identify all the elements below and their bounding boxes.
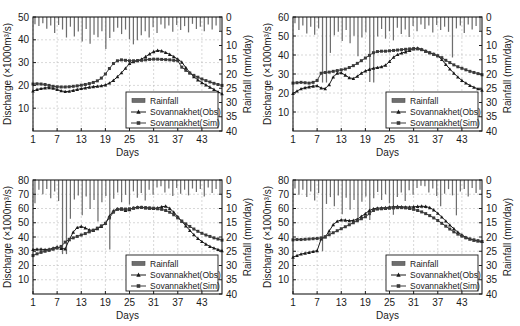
svg-text:5: 5 (486, 189, 492, 200)
svg-text:1: 1 (290, 297, 296, 308)
legend-rainfall-swatch (392, 261, 405, 265)
svg-text:40: 40 (226, 289, 238, 300)
panel-1-svg: 1020304050Discharge (×1000m³/s)051015202… (0, 0, 260, 163)
svg-text:35: 35 (226, 274, 238, 285)
legend-label-1: Sovannakhet(Obs) (410, 107, 481, 117)
series-sim (292, 206, 484, 243)
svg-text:0: 0 (226, 12, 232, 23)
svg-text:30: 30 (486, 97, 498, 108)
svg-text:30: 30 (278, 69, 290, 80)
svg-text:19: 19 (100, 297, 112, 308)
svg-text:13: 13 (336, 297, 348, 308)
svg-text:31: 31 (408, 297, 420, 308)
svg-text:10: 10 (278, 274, 290, 285)
legend-rainfall-swatch (132, 261, 145, 265)
svg-text:37: 37 (432, 134, 444, 145)
x-axis-title: Days (116, 310, 139, 321)
legend-label-2: Sovannakhet(Sim) (150, 118, 220, 128)
legend-label-1: Sovannakhet(Obs) (150, 107, 221, 117)
y-axis-right-title: Rainfall (mm/day) (242, 35, 253, 113)
svg-text:1: 1 (30, 134, 36, 145)
svg-text:20: 20 (18, 80, 30, 91)
legend-label-2: Sovannakhet(Sim) (410, 281, 480, 291)
svg-text:37: 37 (172, 134, 184, 145)
svg-text:10: 10 (486, 40, 498, 51)
svg-text:25: 25 (486, 246, 498, 257)
svg-text:30: 30 (278, 246, 290, 257)
svg-text:5: 5 (486, 26, 492, 37)
svg-text:80: 80 (278, 175, 290, 186)
svg-text:20: 20 (226, 232, 238, 243)
chart-panel-4: 1020304050607080Discharge (×1000m³/s)051… (260, 163, 520, 326)
y-axis-left-title: Discharge (×1000m³/s) (2, 23, 13, 125)
panel-4-svg: 1020304050607080Discharge (×1000m³/s)051… (260, 163, 520, 326)
svg-text:37: 37 (172, 297, 184, 308)
svg-text:40: 40 (486, 289, 498, 300)
svg-text:10: 10 (226, 40, 238, 51)
svg-text:25: 25 (226, 246, 238, 257)
svg-text:25: 25 (384, 297, 396, 308)
svg-text:30: 30 (18, 57, 30, 68)
svg-text:43: 43 (456, 134, 468, 145)
rainfall-bars (35, 17, 220, 49)
legend-label-1: Sovannakhet(Obs) (150, 270, 221, 280)
svg-text:35: 35 (226, 111, 238, 122)
svg-text:15: 15 (486, 54, 498, 65)
svg-text:50: 50 (18, 12, 30, 23)
panel-2-plot: 102030405060Discharge (×1000m³/s)0510152… (260, 0, 520, 163)
svg-text:7: 7 (54, 297, 60, 308)
svg-text:25: 25 (384, 134, 396, 145)
legend-label-1: Sovannakhet(Obs) (410, 270, 481, 280)
svg-text:31: 31 (148, 297, 160, 308)
svg-text:7: 7 (314, 297, 320, 308)
svg-text:80: 80 (18, 175, 30, 186)
svg-text:25: 25 (124, 134, 136, 145)
chart-panel-1: 1020304050Discharge (×1000m³/s)051015202… (0, 0, 260, 163)
legend: RainfallSovannakhet(Obs)Sovannakhet(Sim) (126, 92, 221, 128)
panel-3-svg: 1020304050607080Discharge (×1000m³/s)051… (0, 163, 260, 326)
svg-text:13: 13 (76, 297, 88, 308)
svg-text:25: 25 (124, 297, 136, 308)
svg-text:13: 13 (336, 134, 348, 145)
svg-text:5: 5 (226, 26, 232, 37)
legend-label-2: Sovannakhet(Sim) (150, 281, 220, 291)
svg-text:10: 10 (486, 203, 498, 214)
svg-text:7: 7 (314, 134, 320, 145)
multi-panel-hydrograph-figure: 1020304050Discharge (×1000m³/s)051015202… (0, 0, 520, 326)
y-axis-left-title: Discharge (×1000m³/s) (262, 186, 273, 288)
y-axis-left-title: Discharge (×1000m³/s) (262, 23, 273, 125)
svg-text:10: 10 (278, 107, 290, 118)
svg-text:20: 20 (486, 232, 498, 243)
svg-text:31: 31 (408, 134, 420, 145)
svg-text:20: 20 (18, 260, 30, 271)
svg-text:43: 43 (456, 297, 468, 308)
chart-panel-3: 1020304050607080Discharge (×1000m³/s)051… (0, 163, 260, 326)
svg-text:40: 40 (18, 232, 30, 243)
x-axis-title: Days (376, 147, 399, 158)
svg-text:60: 60 (278, 203, 290, 214)
svg-text:5: 5 (226, 189, 232, 200)
legend-label-0: Rainfall (410, 96, 438, 106)
svg-text:20: 20 (226, 69, 238, 80)
svg-text:35: 35 (486, 111, 498, 122)
legend-sim-marker (137, 121, 141, 125)
rainfall-bars (295, 180, 480, 251)
svg-text:20: 20 (278, 260, 290, 271)
x-axis-title: Days (116, 147, 139, 158)
svg-text:40: 40 (226, 126, 238, 137)
rainfall-bars (35, 180, 220, 254)
svg-text:43: 43 (196, 134, 208, 145)
legend-label-2: Sovannakhet(Sim) (410, 118, 480, 128)
y-axis-right-title: Rainfall (mm/day) (502, 198, 513, 276)
svg-text:1: 1 (290, 134, 296, 145)
svg-text:30: 30 (226, 260, 238, 271)
legend-sim-marker (137, 284, 141, 288)
svg-text:40: 40 (278, 232, 290, 243)
svg-text:25: 25 (486, 83, 498, 94)
svg-text:15: 15 (226, 54, 238, 65)
svg-text:0: 0 (486, 12, 492, 23)
panel-1-plot: 1020304050Discharge (×1000m³/s)051015202… (0, 0, 260, 163)
svg-text:10: 10 (18, 274, 30, 285)
chart-panel-2: 102030405060Discharge (×1000m³/s)0510152… (260, 0, 520, 163)
svg-text:30: 30 (226, 97, 238, 108)
